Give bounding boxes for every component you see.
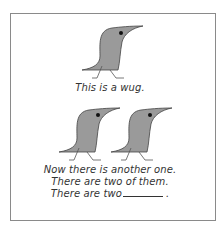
wug-bird-icon xyxy=(109,104,175,164)
answer-blank xyxy=(123,188,163,197)
caption-line-3: There are two. xyxy=(0,188,220,200)
caption-line-3-end: . xyxy=(166,188,169,199)
caption-line-2: There are two of them. xyxy=(0,176,220,188)
caption-single: This is a wug. xyxy=(0,82,220,94)
caption-line-1: Now there is another one. xyxy=(0,164,220,176)
caption-line-3-text: There are two xyxy=(51,188,122,199)
wug-bird-icon xyxy=(80,22,146,82)
